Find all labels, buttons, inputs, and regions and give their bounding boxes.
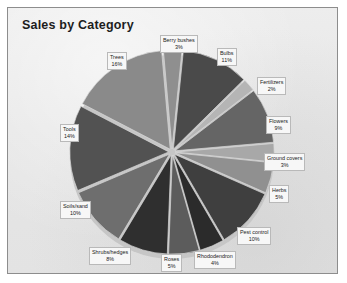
pie-data-label-percent: 11%	[220, 57, 234, 64]
pie-data-label-percent: 4%	[197, 260, 233, 267]
pie-data-label-category: Rhododendron	[197, 253, 233, 260]
pie-data-label-percent: 2%	[260, 86, 283, 93]
pie-data-label-percent: 3%	[267, 162, 302, 169]
pie-data-label-category: Herbs	[272, 187, 286, 194]
pie-data-label: Rhododendron4%	[194, 251, 236, 269]
pie-data-label-category: Pest control	[240, 229, 268, 236]
pie-data-label-category: Ground covers	[267, 155, 302, 162]
pie-data-label: Flowers9%	[266, 116, 291, 134]
pie-data-label-category: Berry bushes	[163, 37, 195, 44]
pie-data-label-percent: 3%	[163, 44, 195, 51]
pie-data-label: Bulbs11%	[217, 48, 237, 66]
pie-data-label: Pest control10%	[237, 227, 271, 245]
pie-data-label: Soils/sand10%	[60, 201, 91, 219]
pie-data-label-category: Trees	[110, 54, 124, 61]
pie-data-label: Berry bushes3%	[160, 35, 198, 53]
pie-data-label-percent: 5%	[164, 263, 179, 270]
pie-data-label: Herbs5%	[269, 185, 289, 203]
pie-data-label-category: Fertilizers	[260, 79, 283, 86]
pie-data-label: Fertilizers2%	[257, 77, 286, 95]
pie-data-label-percent: 10%	[240, 236, 268, 243]
pie-data-label-percent: 5%	[272, 194, 286, 201]
pie-data-label-percent: 16%	[110, 61, 124, 68]
pie-data-label-category: Bulbs	[220, 50, 234, 57]
pie-data-label-percent: 10%	[63, 210, 88, 217]
pie-data-label-percent: 8%	[92, 256, 128, 263]
pie-data-label-category: Tools	[63, 126, 76, 133]
pie-data-label: Tools14%	[60, 124, 79, 142]
pie-data-label-category: Flowers	[269, 118, 288, 125]
pie-data-label-percent: 9%	[269, 125, 288, 132]
pie-data-label: Trees16%	[107, 52, 127, 70]
pie-data-label: Roses5%	[161, 254, 182, 272]
pie-data-label-category: Roses	[164, 256, 179, 263]
pie-data-label: Ground covers3%	[264, 153, 305, 171]
pie-data-label-percent: 14%	[63, 133, 76, 140]
pie-data-label-category: Soils/sand	[63, 203, 88, 210]
chart-panel: Sales by Category Berry bushes 3%Bulbs 1…	[7, 7, 338, 274]
pie-data-label-category: Shrubs/hedges	[92, 249, 128, 256]
pie-data-label: Shrubs/hedges8%	[89, 247, 131, 265]
